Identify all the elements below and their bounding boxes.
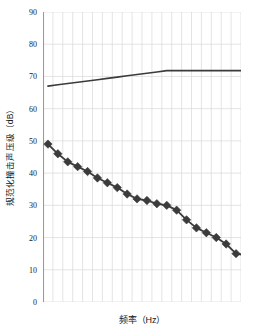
data-point-marker xyxy=(143,196,151,204)
y-axis-tick-labels: 9080706050403020100 xyxy=(18,0,40,334)
x-axis-title: 频率（Hz） xyxy=(43,308,241,330)
x-axis-title-text: 频率（Hz） xyxy=(119,313,166,326)
y-axis-tick-label: 40 xyxy=(29,169,37,178)
chart-container: 规范化撞击声压级（dB） 9080706050403020100 频率（Hz） xyxy=(0,0,254,334)
plot-area xyxy=(43,12,241,302)
y-axis-title-text: 规范化撞击声压级（dB） xyxy=(6,104,15,206)
gridlines xyxy=(43,12,241,302)
y-axis-tick-label: 90 xyxy=(29,8,37,17)
data-point-marker xyxy=(202,229,210,237)
data-point-marker xyxy=(103,179,111,187)
data-point-marker xyxy=(163,201,171,209)
y-axis-tick-label: 80 xyxy=(29,40,37,49)
series-line-reference xyxy=(48,71,241,86)
data-point-marker xyxy=(73,162,81,170)
y-axis-tick-label: 0 xyxy=(33,298,37,307)
y-axis-tick-label: 10 xyxy=(29,265,37,274)
y-axis-tick-label: 30 xyxy=(29,201,37,210)
y-axis-tick-label: 70 xyxy=(29,72,37,81)
y-axis-title: 规范化撞击声压级（dB） xyxy=(0,0,20,310)
y-axis-tick-label: 60 xyxy=(29,104,37,113)
y-axis-tick-label: 20 xyxy=(29,233,37,242)
data-point-marker xyxy=(153,200,161,208)
plot-svg xyxy=(43,12,241,302)
y-axis-tick-label: 50 xyxy=(29,136,37,145)
data-point-marker xyxy=(133,195,141,203)
